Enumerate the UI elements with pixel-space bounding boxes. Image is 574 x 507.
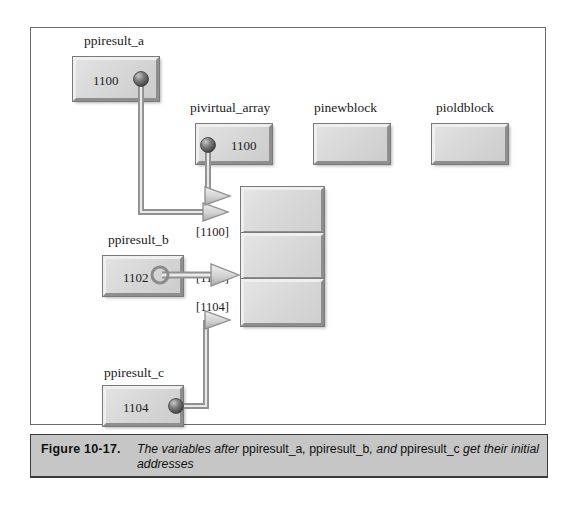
- box-pinewblock: [314, 124, 390, 164]
- box-ppiresult-b: 1102: [103, 256, 183, 296]
- array-index-label-0: [1100]: [196, 225, 229, 240]
- caption-var-3: ppiresult_c: [400, 442, 459, 456]
- caption-var-2: ppiresult_b: [309, 442, 369, 456]
- box-ppiresult-a: 1100: [73, 57, 159, 101]
- value-ppiresult-a: 1100: [93, 73, 119, 89]
- array-cell-2-face: [244, 282, 321, 323]
- label-ppiresult-a: ppiresult_a: [84, 33, 144, 49]
- box-pinewblock-face: [317, 127, 387, 161]
- box-pioldblock: [432, 124, 508, 164]
- label-ppiresult-c: ppiresult_c: [104, 365, 164, 381]
- caption-part-3: , and: [369, 442, 400, 456]
- array-index-label-2: [1104]: [196, 300, 229, 315]
- array-index-label-1: [1102]: [196, 271, 229, 286]
- array-cell-0: [241, 187, 324, 234]
- figure-caption-bar: Figure 10-17. The variables after ppires…: [30, 434, 548, 478]
- array-cell-1: [241, 233, 324, 280]
- value-ppiresult-b: 1102: [123, 270, 149, 286]
- value-ppiresult-c: 1104: [123, 400, 149, 416]
- array-cell-0-face: [244, 190, 321, 231]
- box-ppiresult-c: 1104: [103, 386, 183, 426]
- value-pivirtual-array: 1100: [231, 138, 257, 154]
- figure-page: ppiresult_a 1100 pivirtual_array 1100 pi…: [0, 0, 574, 507]
- caption-part-1: The variables after: [137, 442, 242, 456]
- label-pinewblock: pinewblock: [314, 100, 377, 116]
- label-pivirtual-array: pivirtual_array: [190, 100, 270, 116]
- label-ppiresult-b: ppiresult_b: [108, 232, 169, 248]
- array-cell-2: [241, 279, 324, 326]
- box-pivirtual-array: 1100: [196, 124, 272, 164]
- label-pioldblock: pioldblock: [436, 100, 494, 116]
- figure-number: Figure 10-17.: [41, 442, 121, 456]
- box-pioldblock-face: [435, 127, 505, 161]
- array-cell-1-face: [244, 236, 321, 277]
- virtual-array-block: [241, 187, 324, 326]
- caption-var-1: ppiresult_a: [242, 442, 302, 456]
- figure-caption-text: The variables after ppiresult_a, ppiresu…: [137, 442, 541, 472]
